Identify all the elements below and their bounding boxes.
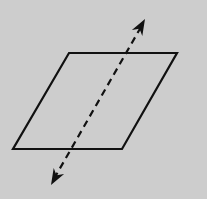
diagram-canvas: [0, 0, 207, 199]
line-plane-diagram: [0, 0, 207, 199]
background: [0, 0, 207, 199]
